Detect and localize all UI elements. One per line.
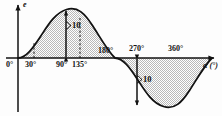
y-axis-label: e (23, 1, 27, 9)
x-tick-label-270: 270° (129, 45, 144, 53)
negative-half-cycle-fill (115, 58, 212, 107)
waveform-svg (0, 0, 222, 116)
x-axis-label: α (°) (203, 62, 218, 70)
sine-wave-figure: e α (°) 0° 30° 90° 135° 180° 270° 360° 1… (0, 0, 222, 116)
x-tick-label-360: 360° (168, 45, 183, 53)
x-tick-label-0: 0° (6, 61, 13, 69)
lower-amplitude-label: 10 (143, 75, 152, 84)
upper-amplitude-label: 10 (72, 21, 81, 30)
x-tick-label-90: 90° (56, 61, 67, 69)
x-tick-label-180: 180° (98, 47, 113, 55)
x-tick-label-135: 135° (72, 61, 87, 69)
x-tick-label-30: 30° (25, 61, 36, 69)
